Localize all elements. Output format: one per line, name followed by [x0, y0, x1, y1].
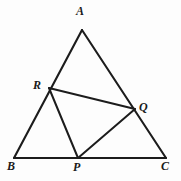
- vertex-label-C: C: [161, 160, 169, 172]
- vertex-label-A: A: [76, 5, 84, 17]
- vertex-label-B: B: [7, 160, 15, 172]
- geometry-diagram: A B C P Q R: [0, 0, 181, 181]
- segment-PQ-line: [78, 109, 135, 158]
- vertex-label-Q: Q: [139, 101, 148, 113]
- geometry-canvas: [0, 0, 181, 181]
- segment-RP-line: [49, 88, 78, 158]
- vertex-label-R: R: [33, 79, 41, 91]
- vertex-label-P: P: [73, 161, 80, 173]
- side-AC-line: [82, 30, 166, 158]
